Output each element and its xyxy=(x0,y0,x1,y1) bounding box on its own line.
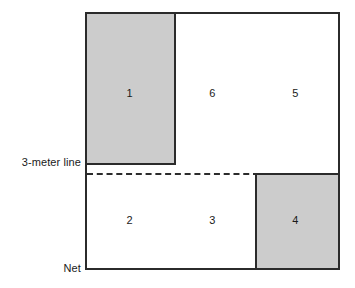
net-label: Net xyxy=(64,263,81,274)
zone-label-4: 4 xyxy=(292,214,298,225)
volleyball-court-diagram: 3-meter line Net 1 6 5 2 3 4 xyxy=(0,0,355,288)
zone-label-2: 2 xyxy=(126,214,132,225)
zone-label-6: 6 xyxy=(209,87,215,98)
zone-label-1: 1 xyxy=(126,87,132,98)
three-meter-line xyxy=(87,173,259,175)
zone-label-3: 3 xyxy=(209,214,215,225)
court-boundary: 1 6 5 2 3 4 xyxy=(85,12,340,270)
three-meter-line-label: 3-meter line xyxy=(22,157,81,168)
zone-label-5: 5 xyxy=(292,87,298,98)
